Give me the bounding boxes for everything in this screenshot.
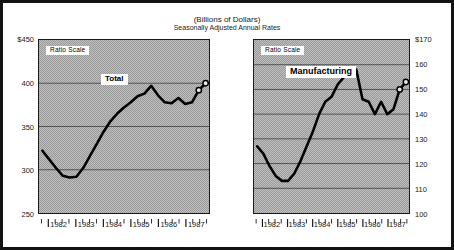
ratio-scale-label-total: Ratio Scale xyxy=(46,46,89,55)
plot-area-manufacturing: Ratio Scale Manufacturing xyxy=(253,39,410,214)
estimate-marker xyxy=(397,87,402,92)
estimate-marker xyxy=(403,79,408,84)
y-tick-label: 110 xyxy=(415,185,427,194)
y-tick-label: $450 xyxy=(4,35,34,44)
plot-area-total: Ratio Scale Total xyxy=(38,39,210,214)
chart-units-title: (Billions of Dollars) xyxy=(3,15,451,24)
y-tick-label: 250 xyxy=(4,210,34,219)
chart-panel-manufacturing: Ratio Scale Manufacturing 10011012013014… xyxy=(253,39,410,214)
series-label-total: Total xyxy=(101,74,128,85)
y-tick-label: 350 xyxy=(4,123,34,132)
x-tick-label: 1982 xyxy=(44,220,74,229)
x-tick-label: 1987 xyxy=(181,220,211,229)
series-label-manufacturing: Manufacturing xyxy=(286,66,356,78)
y-tick-label: $170 xyxy=(415,35,432,44)
y-tick-label: 160 xyxy=(415,60,428,69)
x-tick-label: 1983 xyxy=(71,220,101,229)
estimate-marker xyxy=(203,81,208,86)
data-line-manufacturing xyxy=(257,70,406,181)
y-tick-label: 150 xyxy=(415,85,428,94)
x-tick-label: 1986 xyxy=(154,220,184,229)
x-tick-label: 1984 xyxy=(99,220,129,229)
data-line-total xyxy=(42,83,205,177)
y-tick-label: 100 xyxy=(415,210,428,219)
estimate-marker xyxy=(196,88,201,93)
chart-panel-total: Ratio Scale Total 250300350400$450 19821… xyxy=(38,39,210,214)
y-tick-label: 140 xyxy=(415,110,428,119)
plot-svg-total xyxy=(39,40,209,213)
chart-figure: (Billions of Dollars) Seasonally Adjuste… xyxy=(0,0,454,250)
y-tick-label: 300 xyxy=(4,166,34,175)
x-tick-label: 1985 xyxy=(126,220,156,229)
x-tick-label: 1987 xyxy=(382,220,412,229)
ratio-scale-label-manufacturing: Ratio Scale xyxy=(261,46,304,55)
y-tick-label: 400 xyxy=(4,79,34,88)
chart-subtitle: Seasonally Adjusted Annual Rates xyxy=(3,24,451,31)
y-tick-label: 120 xyxy=(415,160,428,169)
y-tick-label: 130 xyxy=(415,135,428,144)
